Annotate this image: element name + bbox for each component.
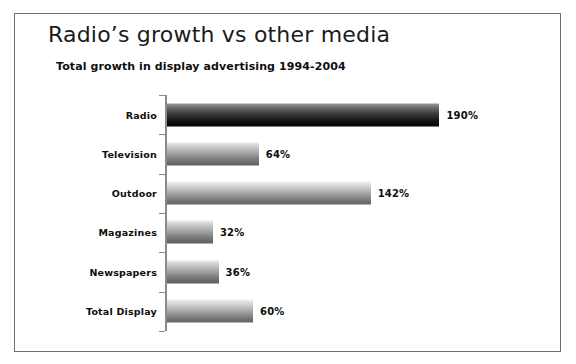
category-label: Total Display bbox=[20, 306, 165, 317]
category-label-wrap: Outdoor bbox=[12, 174, 165, 213]
bar-value-label: 64% bbox=[266, 148, 291, 159]
chart-page: Radio’s growth vs other media Total grow… bbox=[0, 0, 576, 364]
bar-row: Television64% bbox=[0, 134, 576, 173]
bar bbox=[167, 221, 213, 244]
axis-tick bbox=[159, 331, 165, 332]
category-label: Newspapers bbox=[20, 266, 165, 277]
category-label-wrap: Newspapers bbox=[12, 252, 165, 291]
bar bbox=[167, 300, 253, 323]
category-label: Magazines bbox=[20, 227, 165, 238]
bar bbox=[167, 182, 371, 205]
bar-value-label: 60% bbox=[260, 306, 285, 317]
bar-row: Outdoor142% bbox=[0, 174, 576, 213]
bar bbox=[167, 260, 219, 283]
bar-row: Magazines32% bbox=[0, 213, 576, 252]
category-label: Outdoor bbox=[20, 188, 165, 199]
category-label-wrap: Television bbox=[12, 134, 165, 173]
bar bbox=[167, 103, 439, 126]
bar-row: Radio190% bbox=[0, 95, 576, 134]
bar-value-label: 36% bbox=[226, 266, 251, 277]
bar-value-label: 190% bbox=[446, 109, 478, 120]
category-label: Radio bbox=[20, 109, 165, 120]
bar-row: Newspapers36% bbox=[0, 252, 576, 291]
category-label-wrap: Magazines bbox=[12, 213, 165, 252]
category-label-wrap: Total Display bbox=[12, 292, 165, 331]
category-label: Television bbox=[20, 148, 165, 159]
bar bbox=[167, 142, 259, 165]
bar-value-label: 142% bbox=[378, 188, 410, 199]
category-label-wrap: Radio bbox=[12, 95, 165, 134]
bar-value-label: 32% bbox=[220, 227, 245, 238]
bar-row: Total Display60% bbox=[0, 292, 576, 331]
plot-area: Radio190%Television64%Outdoor142%Magazin… bbox=[0, 0, 576, 364]
